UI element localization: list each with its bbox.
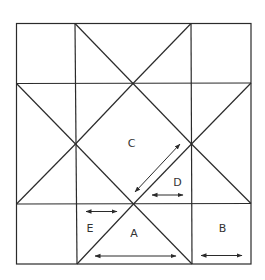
bottom-diagonal-2	[134, 204, 193, 264]
label-b: B	[219, 222, 227, 235]
label-e: E	[87, 222, 94, 235]
quilt-block-diagram: C D E A B	[0, 0, 265, 280]
right-diagonal-2	[192, 144, 252, 204]
label-a: A	[130, 227, 138, 240]
label-c: C	[128, 137, 136, 150]
left-diagonal-2	[17, 144, 76, 204]
top-diagonal-1	[75, 24, 133, 84]
top-diagonal-2	[133, 24, 191, 84]
left-diagonal-1	[17, 84, 76, 145]
diamond-edge-bottom-left	[76, 144, 134, 204]
diamond-edge-top-right	[133, 84, 192, 145]
right-diagonal-1	[192, 83, 252, 144]
label-d: D	[173, 176, 181, 189]
bottom-diagonal-1	[77, 204, 134, 264]
diamond-edge-top-left	[76, 84, 134, 145]
